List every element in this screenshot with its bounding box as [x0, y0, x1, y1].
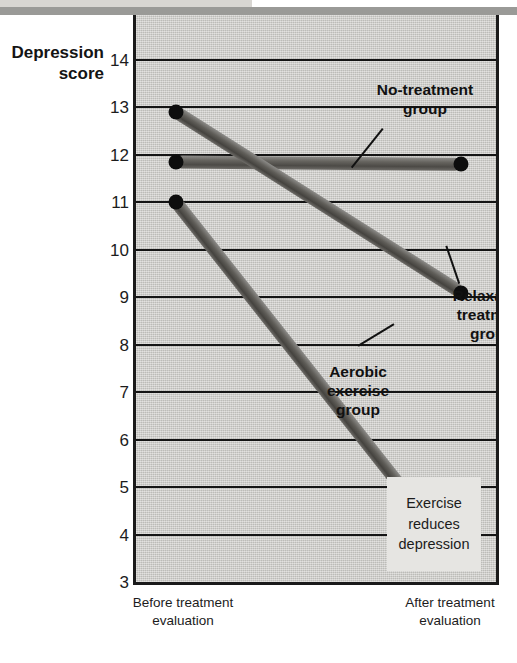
y-axis-tick-11: 11: [99, 194, 129, 211]
data-point-no-treatment-group-end: [454, 157, 469, 172]
x-axis-label-before-line2: evaluation: [118, 612, 248, 630]
callout-no-treatment-group: No-treatment group: [363, 81, 487, 119]
y-axis-tick-3: 3: [99, 574, 129, 591]
y-axis-tick-4: 4: [99, 526, 129, 543]
callout-relaxation-line2: treatment: [430, 306, 499, 325]
y-axis-title-line2: score: [4, 63, 104, 84]
annotation-line-2: reduces: [408, 514, 460, 535]
y-axis-tick-10: 10: [99, 241, 129, 258]
callout-aerobic-line2: exercise: [302, 382, 414, 401]
x-axis-label-after: After treatment evaluation: [385, 594, 515, 629]
gridline-6: [136, 439, 496, 441]
header-band-dark: [0, 7, 517, 15]
y-axis-tick-7: 7: [99, 384, 129, 401]
callout-aerobic-exercise-group: Aerobic exercise group: [302, 363, 414, 420]
gridline-14: [136, 59, 496, 61]
data-point-aerobic-exercise-group-start: [169, 195, 184, 210]
callout-relaxation-line3: group: [430, 325, 499, 344]
y-axis-tick-14: 14: [99, 52, 129, 69]
y-axis-tick-5: 5: [99, 479, 129, 496]
y-axis-tick-12: 12: [99, 146, 129, 163]
annotation-exercise-reduces-depression: Exercise reduces depression: [387, 477, 481, 571]
x-axis-label-before-line1: Before treatment: [118, 594, 248, 612]
data-point-no-treatment-group-start: [169, 155, 184, 170]
data-point-relaxation-treatment-group-start: [169, 105, 184, 120]
annotation-line-3: depression: [399, 534, 470, 555]
y-axis-tick-9: 9: [99, 289, 129, 306]
plot-area: Exercise reduces depression No-treatment…: [133, 15, 499, 585]
annotation-line-1: Exercise: [406, 493, 462, 514]
callout-relaxation-treatment-group: Relaxation treatment group: [430, 287, 499, 344]
y-axis-title-line1: Depression: [4, 42, 104, 63]
y-axis-tick-labels: 14131211109876543: [93, 15, 129, 585]
callout-aerobic-line3: group: [302, 401, 414, 420]
callout-no-treatment-line1: No-treatment: [363, 81, 487, 100]
gridline-10: [136, 249, 496, 251]
y-axis-tick-8: 8: [99, 336, 129, 353]
y-axis-tick-6: 6: [99, 431, 129, 448]
y-axis-tick-13: 13: [99, 99, 129, 116]
x-axis-label-after-line1: After treatment: [385, 594, 515, 612]
callout-relaxation-line1: Relaxation: [430, 287, 499, 306]
callout-aerobic-line1: Aerobic: [302, 363, 414, 382]
callout-no-treatment-line2: group: [363, 100, 487, 119]
x-axis-label-before: Before treatment evaluation: [118, 594, 248, 629]
series-line-no-treatment-group: [176, 156, 461, 171]
depression-score-line-chart: Depression score 14131211109876543 Exerc…: [0, 0, 517, 663]
y-axis-title: Depression score: [4, 42, 104, 85]
gridline-8: [136, 344, 496, 346]
x-axis-label-after-line2: evaluation: [385, 612, 515, 630]
